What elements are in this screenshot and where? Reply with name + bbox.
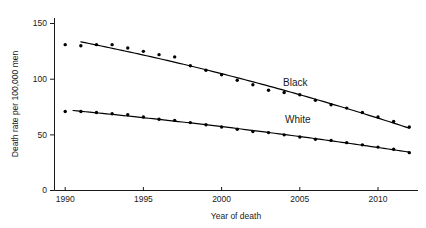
x-axis-tick-labels: 1990 1995 2000 2005 2010 — [56, 194, 388, 204]
black-data-point — [173, 55, 176, 58]
series-label-black: Black — [283, 77, 308, 88]
white-data-point — [236, 128, 239, 131]
y-tick-label-150: 150 — [33, 18, 47, 28]
white-data-point — [220, 125, 223, 128]
x-tick-label-2010: 2010 — [369, 194, 388, 204]
black-data-point — [314, 99, 317, 102]
white-data-point — [157, 118, 160, 121]
black-data-point — [282, 91, 285, 94]
white-fit-curve — [73, 111, 409, 153]
black-data-point — [251, 83, 254, 86]
black-data-point — [142, 50, 145, 53]
x-axis-title: Year of death — [211, 211, 262, 221]
y-axis-ticks — [50, 24, 55, 191]
black-data-point — [63, 43, 66, 46]
y-tick-label-50: 50 — [38, 130, 48, 140]
black-data-point — [236, 79, 239, 82]
black-data-point — [392, 120, 395, 123]
black-data-point — [345, 106, 348, 109]
white-data-points — [63, 110, 410, 155]
series-label-white: White — [285, 114, 311, 125]
black-data-point — [204, 69, 207, 72]
white-data-point — [126, 113, 129, 116]
white-data-point — [95, 111, 98, 114]
white-data-point — [142, 115, 145, 118]
white-data-point — [329, 139, 332, 142]
white-data-point — [189, 121, 192, 124]
white-data-point — [392, 148, 395, 151]
black-data-point — [189, 64, 192, 67]
black-data-point — [220, 73, 223, 76]
y-tick-label-0: 0 — [42, 185, 47, 195]
black-data-point — [95, 43, 98, 46]
black-data-point — [126, 46, 129, 49]
black-fit-curve — [81, 42, 409, 128]
x-tick-label-1995: 1995 — [134, 194, 153, 204]
x-axis-ticks — [65, 187, 378, 191]
black-data-point — [408, 125, 411, 128]
black-data-point — [298, 93, 301, 96]
y-tick-label-100: 100 — [33, 74, 47, 84]
white-data-point — [345, 141, 348, 144]
black-data-points — [63, 43, 410, 129]
death-rate-scatter-chart: 0 50 100 150 1990 1995 2000 2005 2010 De… — [0, 0, 426, 228]
y-axis-tick-labels: 0 50 100 150 — [33, 18, 47, 195]
y-axis-title: Death rate per 100,000 men — [10, 51, 20, 158]
white-data-point — [282, 133, 285, 136]
black-data-point — [157, 53, 160, 56]
white-data-point — [79, 110, 82, 113]
black-data-point — [110, 43, 113, 46]
white-data-point — [173, 119, 176, 122]
white-data-point — [314, 138, 317, 141]
black-data-point — [267, 89, 270, 92]
white-data-point — [361, 143, 364, 146]
black-data-point — [361, 111, 364, 114]
x-tick-label-2000: 2000 — [212, 194, 231, 204]
white-data-point — [63, 110, 66, 113]
black-data-point — [376, 115, 379, 118]
x-tick-label-2005: 2005 — [290, 194, 309, 204]
black-data-point — [329, 103, 332, 106]
x-tick-label-1990: 1990 — [56, 194, 75, 204]
white-data-point — [110, 112, 113, 115]
white-data-point — [251, 130, 254, 133]
white-data-point — [204, 123, 207, 126]
white-data-point — [376, 145, 379, 148]
white-data-point — [408, 151, 411, 154]
white-data-point — [267, 131, 270, 134]
black-data-point — [79, 44, 82, 47]
white-data-point — [298, 135, 301, 138]
